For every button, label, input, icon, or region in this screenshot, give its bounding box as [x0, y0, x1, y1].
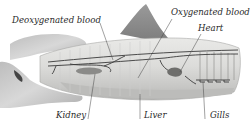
- label-heart: Heart: [198, 24, 223, 33]
- label-deoxygenated-blood: Deoxygenated blood: [12, 16, 101, 25]
- label-liver: Liver: [144, 111, 167, 120]
- label-gills: Gills: [210, 111, 230, 120]
- kidney-organ: [76, 68, 102, 75]
- label-oxygenated-blood: Oxygenated blood: [171, 8, 250, 17]
- dorsal-fin: [120, 4, 168, 40]
- fish-diagram: Deoxygenated blood Oxygenated blood Hear…: [0, 0, 251, 129]
- label-kidney: Kidney: [56, 111, 86, 120]
